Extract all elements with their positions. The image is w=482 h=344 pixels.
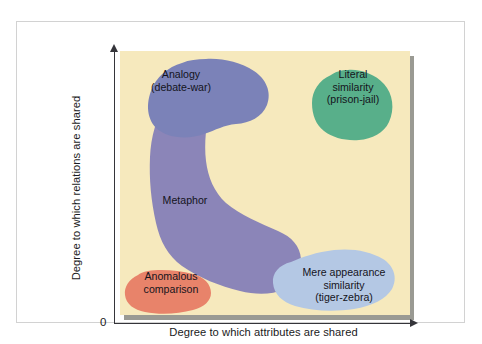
x-axis-label: Degree to which attributes are shared: [114, 326, 413, 338]
y-axis-line: [114, 50, 115, 323]
anomalous-comparison-blob: [125, 270, 211, 314]
analogy-blob: [148, 59, 269, 138]
y-axis-arrow-icon: [110, 44, 118, 52]
x-axis-line: [114, 323, 413, 324]
figure-frame: Analogy (debate-war) Literal similarity …: [16, 21, 465, 323]
concept-space-blobs: [120, 51, 410, 315]
literal-similarity-blob: [312, 70, 392, 140]
origin-label: 0: [100, 316, 106, 328]
plot-area: [120, 51, 410, 315]
y-axis-label: Degree to which relations are shared: [70, 68, 82, 308]
figure-root: Analogy (debate-war) Literal similarity …: [0, 0, 482, 344]
